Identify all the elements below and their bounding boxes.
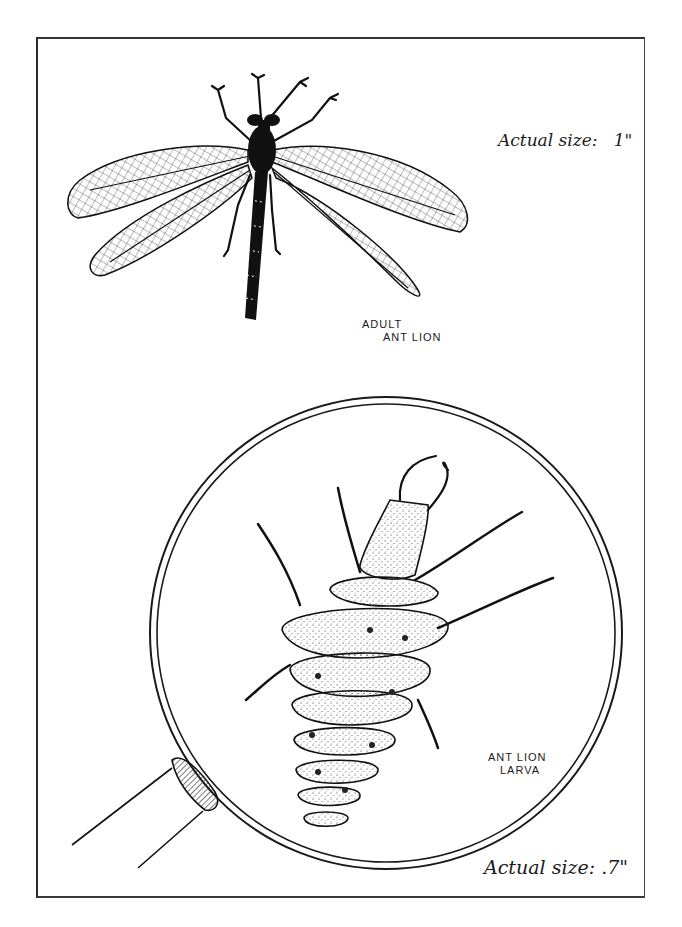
- adult-body: [245, 114, 280, 320]
- larva-actual-size-label: Actual size: .7": [484, 856, 628, 878]
- larva-name-label-line1: ANT LION: [488, 751, 547, 763]
- adult-ant-lion-drawing: [68, 74, 468, 320]
- adult-name-label-line2: ANT LION: [383, 331, 442, 343]
- adult-name-label-line1: ADULT: [362, 318, 402, 330]
- larva-name-label-line2: LARVA: [500, 764, 540, 776]
- adult-actual-size-label: Actual size: 1": [498, 130, 632, 150]
